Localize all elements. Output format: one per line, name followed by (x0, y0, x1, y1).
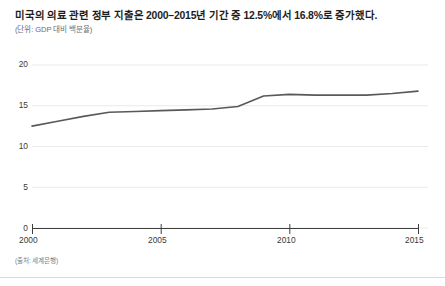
x-tick-label-2010: 2010 (277, 236, 296, 245)
plot-area: 0 5 10 15 20 2000 2005 2010 2015 (0, 0, 445, 286)
x-tick-label-2015: 2015 (405, 236, 424, 245)
y-tick-label-5: 5 (6, 183, 28, 192)
line-chart-svg (0, 0, 445, 286)
x-tick-label-2005: 2005 (148, 236, 167, 245)
bottom-divider (0, 277, 445, 278)
gridlines (32, 65, 428, 228)
x-tick-label-2000: 2000 (19, 236, 38, 245)
source-note: (출처: 세계은행) (15, 255, 58, 265)
chart-figure: 미국의 의료 관련 정부 지출은 2000–2015년 기간 중 12.5%에서… (0, 0, 445, 286)
y-tick-label-10: 10 (6, 142, 28, 151)
y-tick-label-15: 15 (6, 101, 28, 110)
y-tick-label-20: 20 (6, 60, 28, 69)
data-series-line (32, 91, 418, 126)
y-tick-label-0: 0 (6, 224, 28, 233)
